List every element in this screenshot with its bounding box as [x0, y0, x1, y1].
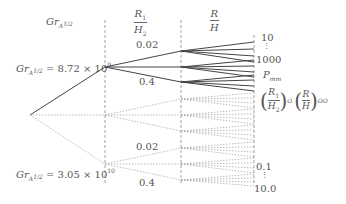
ratio-label-lower-bottom: 0.4 — [139, 178, 155, 188]
header-r-h: R H — [210, 8, 219, 33]
output-range-dots: ⋮ — [263, 43, 270, 50]
output-lower-range-dots: ⋮ — [261, 172, 268, 179]
ratio-label-lower-top: 0.02 — [136, 142, 158, 152]
output-pmm: Pmm — [263, 70, 281, 82]
output-lower-range-bottom: 10.0 — [254, 184, 276, 194]
ratio-label-upper-top: 0.02 — [136, 40, 158, 50]
upper-grashof-value: GrA1/2 = 8.72 × 109 — [16, 62, 111, 76]
header-grashof: GrA1/2 — [46, 17, 73, 29]
lower-grashof-value: GrA1/2 = 3.05 × 1010 — [16, 168, 115, 182]
ratio-label-upper-bottom: 0.4 — [139, 77, 155, 87]
header-r1-h2: R1 H2 — [134, 8, 147, 37]
output-optimal-ratios: ( R1 H2 )O ( R H )OO — [260, 88, 328, 113]
output-range-bottom: 1000 — [256, 55, 281, 65]
